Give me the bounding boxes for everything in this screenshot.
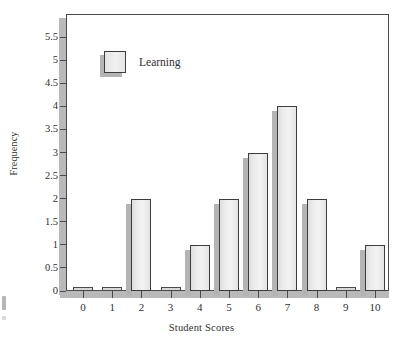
bar [73,287,93,291]
x-axis-tick-label: 5 [214,301,244,313]
y-axis-tick-label: 5.5 [14,32,58,42]
y-axis-tick-label-text: 4 [24,101,58,111]
y-axis-tick-label-text: 2.5 [24,171,58,181]
y-axis-tick-label: 3 [14,148,58,158]
x-axis-tick-label: 0 [68,301,98,313]
legend-label-learning: Learning [139,56,181,68]
scan-artifact [2,316,6,320]
x-axis-tick [171,291,172,298]
y-axis-tick [60,198,66,199]
x-axis-tick [83,291,84,298]
bar [190,245,210,291]
x-axis-tick [317,291,318,298]
y-axis-tick [60,60,66,61]
y-axis-tick-label-text: 3.5 [24,124,58,134]
y-axis-tick-label-text: 1.5 [24,217,58,227]
bar [131,199,151,291]
y-axis-tick-label: 2.5 [14,171,58,181]
bar [102,287,122,291]
x-axis-tick-label: 3 [156,301,186,313]
y-axis-tick [60,106,66,107]
x-axis-tick [229,291,230,298]
bar [248,153,268,292]
y-axis-tick-label-text: 1 [24,240,58,250]
x-axis-tick-label: 7 [272,301,302,313]
y-axis-tick-label-text: 5.5 [24,32,58,42]
y-axis-tick-label: 0.5 [14,263,58,273]
y-axis-tick-label-text: 2 [24,194,58,204]
x-axis-title: Student Scores [0,322,403,333]
legend-swatch-learning [104,51,126,73]
chart-legend: Learning [100,51,181,73]
x-axis-tick [112,291,113,298]
y-axis-tick-label: 2 [14,194,58,204]
y-axis-tick-label-text: 5 [24,55,58,65]
x-axis-tick-label: 4 [185,301,215,313]
x-axis-tick [200,291,201,298]
x-axis-tick-label: 1 [97,301,127,313]
y-axis-tick-label-text: 3 [24,148,58,158]
bar [277,106,297,291]
y-axis-tick-label: 0 [14,286,58,296]
x-axis-shadow [60,291,389,298]
x-axis-tick-label: 6 [243,301,273,313]
y-axis-tick-label-text: 0.5 [24,263,58,273]
y-axis-tick [60,152,66,153]
y-axis-tick [60,129,66,130]
y-axis-tick-label: 5 [14,55,58,65]
y-axis-tick-label-text: 4.5 [24,78,58,88]
y-axis-tick [60,37,66,38]
bar [336,287,356,291]
x-axis-tick [375,291,376,298]
y-axis-tick [60,175,66,176]
y-axis-tick [60,267,66,268]
y-axis-tick-label: 1 [14,240,58,250]
x-axis-tick [141,291,142,298]
y-axis-tick [60,83,66,84]
x-axis-tick-label: 2 [126,301,156,313]
x-axis-tick [346,291,347,298]
y-axis-tick-label: 1.5 [14,217,58,227]
x-axis-tick [287,291,288,298]
y-axis-title: Frequency [8,109,19,199]
histogram-figure: 00.511.522.533.544.555.5 012345678910 Le… [0,0,403,349]
y-axis-tick [60,244,66,245]
bar [161,287,181,291]
y-axis-tick [60,291,66,292]
x-axis-tick [258,291,259,298]
bar [219,199,239,291]
bar [307,199,327,291]
y-axis-tick-label: 4.5 [14,78,58,88]
x-axis-tick-label: 9 [331,301,361,313]
y-axis-tick-label-text: 0 [24,286,58,296]
bar [365,245,385,291]
scan-artifact [2,296,6,310]
y-axis-tick-label: 4 [14,101,58,111]
x-axis-tick-label: 8 [302,301,332,313]
y-axis-tick-label: 3.5 [14,124,58,134]
y-axis-tick [60,221,66,222]
x-axis-tick-label: 10 [360,301,390,313]
